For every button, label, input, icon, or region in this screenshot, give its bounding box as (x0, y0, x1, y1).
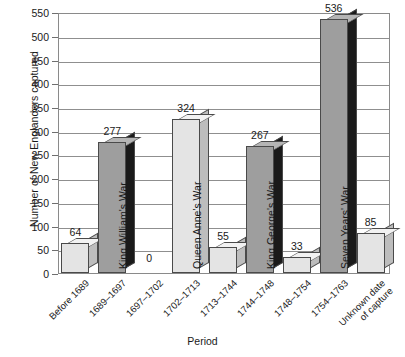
y-axis-tick-mark (52, 274, 58, 275)
y-axis-tick-label: 150 (9, 198, 49, 209)
y-axis-tick-label: 100 (9, 222, 49, 233)
y-axis-tick-label: 0 (9, 269, 49, 280)
bar-value-label: 55 (203, 231, 243, 242)
bar-front-face (61, 243, 89, 273)
y-axis-tick-label: 400 (9, 79, 49, 90)
bar-chart: Number of New Englanders captured 050100… (0, 0, 405, 357)
bar-value-label: 324 (166, 103, 206, 114)
y-axis-tick-label: 250 (9, 150, 49, 161)
bar-war-label: Seven Years' War (339, 186, 351, 269)
bar-war-label: Queen Anne's War (191, 182, 203, 269)
y-axis-tick-label: 450 (9, 56, 49, 67)
bar (209, 247, 237, 273)
bar-front-face (209, 247, 237, 273)
y-axis-tick-label: 550 (9, 8, 49, 19)
bar-front-face (283, 257, 311, 273)
bar (283, 257, 311, 273)
plot-area: 64King William's War2770Queen Anne's War… (58, 13, 390, 274)
bar-value-label: 64 (55, 227, 95, 238)
bar-front-face (357, 233, 385, 273)
bar-war-label: King George's War (265, 181, 277, 269)
bar-value-label: 0 (129, 253, 169, 264)
y-axis-tick-label: 50 (9, 245, 49, 256)
x-axis-title: Period (0, 335, 405, 347)
y-axis-tick-label: 350 (9, 103, 49, 114)
y-axis-tick-label: 500 (9, 32, 49, 43)
bar-value-label: 267 (240, 130, 280, 141)
bar-value-label: 33 (277, 241, 317, 252)
y-axis-tick-label: 300 (9, 127, 49, 138)
bar-value-label: 85 (351, 217, 391, 228)
bar-value-label: 536 (314, 3, 354, 14)
bar (61, 243, 89, 273)
bar (357, 233, 385, 273)
bar-war-label: King William's War (117, 182, 129, 269)
bar-value-label: 277 (92, 126, 132, 137)
y-axis-tick-label: 200 (9, 174, 49, 185)
